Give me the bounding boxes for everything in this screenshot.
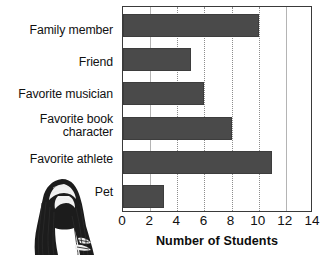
category-label-favorite-book-character-line2: character: [0, 126, 113, 140]
category-label-favorite-musician: Favorite musician: [0, 88, 113, 102]
x-tick-label-6: 6: [200, 213, 208, 228]
chart-figure: Family member Friend Favorite musician F…: [0, 0, 331, 255]
x-tick-label-14: 14: [304, 213, 319, 228]
x-tick-label-2: 2: [145, 213, 153, 228]
plot-area: [123, 7, 311, 211]
x-tick-label-0: 0: [118, 213, 126, 228]
x-axis-title: Number of Students: [122, 234, 312, 248]
gridline-6: [204, 7, 205, 211]
x-tick-label-10: 10: [250, 213, 265, 228]
x-tick-label-8: 8: [227, 213, 235, 228]
x-tick-label-12: 12: [277, 213, 292, 228]
bar-pet: [123, 185, 164, 208]
gridline-10: [259, 7, 260, 211]
category-label-family-member: Family member: [0, 24, 113, 38]
plot-frame: [122, 6, 312, 212]
bar-favorite-book-character: [123, 117, 232, 140]
bar-favorite-musician: [123, 82, 204, 105]
bar-favorite-athlete: [123, 151, 272, 174]
gridline-12: [286, 7, 287, 211]
gridline-8: [232, 7, 233, 211]
bar-family-member: [123, 14, 259, 37]
category-label-friend: Friend: [0, 56, 113, 70]
x-tick-label-4: 4: [173, 213, 181, 228]
gridline-4: [177, 7, 178, 211]
person-long-hair-engraving-icon: [28, 176, 106, 255]
category-label-favorite-athlete: Favorite athlete: [0, 153, 113, 167]
gridline-2: [150, 7, 151, 211]
bar-friend: [123, 48, 191, 71]
x-axis-tick-labels: 02468101214: [122, 213, 312, 233]
